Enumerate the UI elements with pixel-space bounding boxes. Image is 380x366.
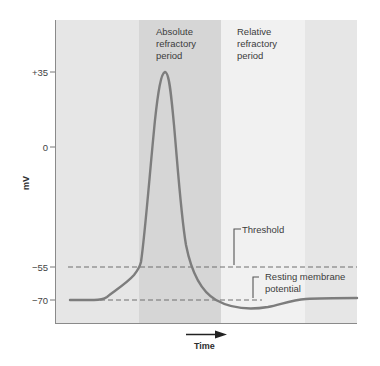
svg-text:refractory: refractory	[237, 38, 277, 49]
svg-text:period: period	[237, 50, 263, 61]
svg-text:refractory: refractory	[156, 38, 196, 49]
resting-label-line2: potential	[265, 283, 301, 294]
resting-label-line1: Resting membrane	[265, 271, 345, 282]
tick-label-plus35: +35	[32, 67, 48, 78]
threshold-label: Threshold	[242, 224, 284, 235]
tick-label-zero: 0	[43, 142, 48, 153]
tick-label-minus55: −55	[32, 262, 48, 273]
y-axis-title: mV	[21, 176, 31, 190]
svg-text:Absolute: Absolute	[156, 26, 193, 37]
x-axis-title: Time	[194, 341, 215, 351]
time-arrow	[186, 331, 227, 339]
svg-text:period: period	[156, 50, 182, 61]
action-potential-chart: +35 0 −55 −70 mV Absolute refractory per…	[0, 0, 380, 366]
svg-text:Relative: Relative	[237, 26, 271, 37]
tick-label-minus70: −70	[32, 295, 48, 306]
y-ticks: +35 0 −55 −70	[32, 67, 55, 306]
